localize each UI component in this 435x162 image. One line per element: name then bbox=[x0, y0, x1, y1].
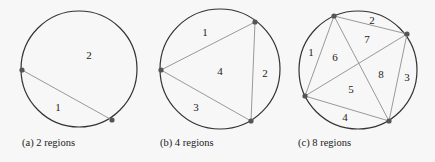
panel-caption: (b) 4 regions bbox=[160, 137, 214, 149]
panel-b: 1423(b) 4 regions bbox=[158, 9, 280, 149]
circle-point bbox=[109, 117, 114, 122]
chord-line bbox=[161, 70, 251, 121]
circle-point bbox=[252, 19, 257, 24]
circle-point bbox=[19, 67, 24, 72]
region-label: 3 bbox=[404, 71, 410, 83]
region-label: 1 bbox=[55, 101, 61, 113]
panel-caption: (c) 8 regions bbox=[298, 137, 351, 149]
region-label: 1 bbox=[202, 26, 208, 38]
region-label: 4 bbox=[217, 65, 223, 77]
circle-outline bbox=[21, 11, 137, 127]
region-label: 7 bbox=[364, 33, 370, 45]
region-label: 8 bbox=[378, 68, 384, 80]
chord-line bbox=[305, 34, 407, 96]
region-label: 2 bbox=[369, 14, 375, 26]
region-label: 4 bbox=[342, 111, 348, 123]
region-label: 1 bbox=[308, 46, 314, 58]
panel-caption: (a) 2 regions bbox=[22, 137, 75, 149]
region-label: 2 bbox=[86, 49, 92, 61]
circle-point bbox=[248, 118, 253, 123]
circle-point bbox=[158, 67, 163, 72]
chord-line bbox=[251, 22, 255, 121]
region-label: 2 bbox=[262, 67, 268, 79]
panel-c: 27168354(c) 8 regions bbox=[298, 11, 417, 149]
region-label: 3 bbox=[193, 101, 199, 113]
chord-line bbox=[22, 70, 112, 120]
circle-point bbox=[386, 118, 391, 123]
panel-a: 21(a) 2 regions bbox=[19, 11, 137, 149]
circle-regions-diagram: 21(a) 2 regions1423(b) 4 regions27168354… bbox=[0, 0, 435, 162]
region-label: 5 bbox=[348, 83, 354, 95]
region-label: 6 bbox=[332, 51, 338, 63]
circle-point bbox=[331, 13, 336, 18]
circle-point bbox=[302, 93, 307, 98]
circle-point bbox=[404, 31, 409, 36]
